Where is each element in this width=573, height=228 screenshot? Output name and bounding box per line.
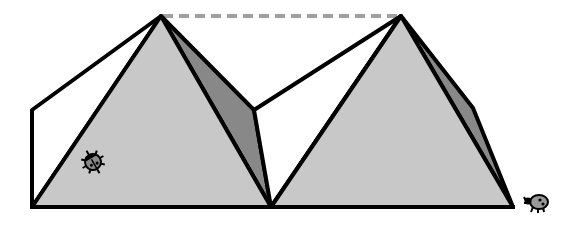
pyramids-diagram xyxy=(0,0,573,228)
right-pyramid xyxy=(254,16,513,207)
left-pyramid xyxy=(32,16,271,207)
ladybug-on-ground-icon xyxy=(524,195,548,213)
